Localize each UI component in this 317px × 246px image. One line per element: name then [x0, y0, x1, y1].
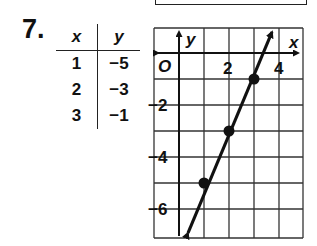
x-tick-2: 2: [223, 59, 232, 78]
y-tick-neg6: −6: [148, 200, 167, 219]
x-tick-4: 4: [274, 59, 284, 78]
y-tick-neg4: −4: [148, 148, 168, 167]
coordinate-graph: y x O 2 4 −2 −4 −6: [0, 0, 317, 246]
x-axis-label: x: [288, 33, 300, 52]
point-1: [199, 178, 210, 189]
y-axis-label: y: [185, 30, 197, 49]
origin-label: O: [158, 57, 171, 76]
point-3: [249, 74, 260, 85]
point-2: [224, 126, 235, 137]
y-tick-neg2: −2: [148, 96, 167, 115]
